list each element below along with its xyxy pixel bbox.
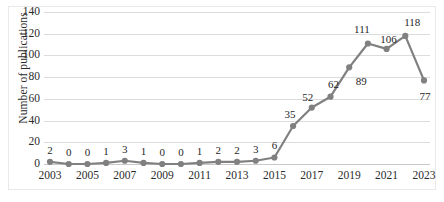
data-point-label: 106 xyxy=(380,34,397,45)
x-axis-tick-label: 2009 xyxy=(151,170,174,182)
y-axis-tick-label: 80 xyxy=(6,71,40,83)
y-axis-tick-label: 100 xyxy=(6,50,40,62)
data-point-marker xyxy=(309,104,315,110)
data-point-label: 3 xyxy=(122,144,128,155)
data-point-marker xyxy=(66,161,72,167)
data-point-marker xyxy=(140,160,146,166)
data-point-label: 62 xyxy=(328,79,339,90)
x-axis-tick-label: 2021 xyxy=(375,170,398,182)
y-axis-tick-label: 40 xyxy=(6,115,40,127)
y-axis-tick-label: 20 xyxy=(6,137,40,149)
x-axis-tick-label: 2003 xyxy=(39,170,62,182)
x-axis-tick-label: 2015 xyxy=(263,170,286,182)
data-point-label: 35 xyxy=(285,109,296,120)
x-axis-tick-label: 2017 xyxy=(300,170,323,182)
data-point-label: 0 xyxy=(159,147,165,158)
y-axis-tick-label: 140 xyxy=(6,6,40,18)
data-point-label: 2 xyxy=(47,145,53,156)
data-point-marker xyxy=(178,161,184,167)
data-point-marker xyxy=(47,159,53,165)
publications-series-line xyxy=(44,12,430,164)
publications-line-chart: Number of publications 02040608010012014… xyxy=(0,0,444,202)
data-point-label: 1 xyxy=(103,146,109,157)
data-point-label: 6 xyxy=(272,140,278,151)
data-point-label: 2 xyxy=(216,145,222,156)
data-point-label: 118 xyxy=(404,17,420,28)
data-point-marker xyxy=(271,154,277,160)
x-axis-tick-label: 2011 xyxy=(188,170,211,182)
data-point-marker xyxy=(402,33,408,39)
y-axis-tick-labels: 020406080100120140 xyxy=(4,0,40,164)
y-axis-tick-label: 0 xyxy=(6,158,40,170)
y-axis-tick-label: 120 xyxy=(6,28,40,40)
x-axis-tick-label: 2005 xyxy=(76,170,99,182)
data-point-label: 77 xyxy=(420,91,431,102)
data-point-marker xyxy=(365,40,371,46)
x-axis-tick-label: 2013 xyxy=(226,170,249,182)
x-axis-tick-label: 2023 xyxy=(413,170,436,182)
data-point-label: 1 xyxy=(141,146,147,157)
data-point-marker xyxy=(103,160,109,166)
data-point-marker xyxy=(234,159,240,165)
x-axis-tick-label: 2007 xyxy=(113,170,136,182)
x-axis-tick-label: 2019 xyxy=(338,170,361,182)
data-point-marker xyxy=(84,161,90,167)
x-axis-tick-labels: 2003200520072009201120132015201720192021… xyxy=(44,170,430,186)
data-point-marker xyxy=(215,159,221,165)
data-point-marker xyxy=(290,123,296,129)
data-point-label: 0 xyxy=(85,147,91,158)
data-point-marker xyxy=(421,77,427,83)
data-point-label: 1 xyxy=(197,146,203,157)
data-point-label: 0 xyxy=(66,147,72,158)
data-point-label: 111 xyxy=(354,24,370,35)
data-point-marker xyxy=(384,46,390,52)
data-point-label: 89 xyxy=(356,76,367,87)
data-point-marker xyxy=(327,94,333,100)
data-point-marker xyxy=(197,160,203,166)
data-point-marker xyxy=(253,158,259,164)
data-point-marker xyxy=(159,161,165,167)
y-axis-tick-label: 60 xyxy=(6,93,40,105)
plot-area: 20013100122363552628911110611877 xyxy=(44,12,430,164)
data-point-label: 0 xyxy=(178,147,184,158)
data-point-label: 52 xyxy=(302,92,313,103)
data-point-marker xyxy=(346,64,352,70)
data-point-marker xyxy=(122,158,128,164)
data-point-label: 3 xyxy=(253,144,259,155)
data-point-label: 2 xyxy=(234,145,240,156)
